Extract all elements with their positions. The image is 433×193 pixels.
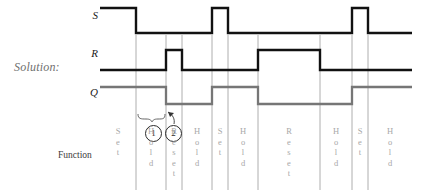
- function-row-label: Function: [58, 150, 92, 160]
- function-letter: d: [328, 158, 344, 169]
- function-letter: o: [143, 137, 159, 148]
- function-letter: H: [189, 126, 205, 137]
- function-letter: l: [382, 147, 398, 158]
- function-letter: R: [166, 126, 182, 137]
- function-letter: s: [281, 147, 297, 158]
- function-letter: e: [166, 137, 182, 148]
- function-letter: e: [352, 137, 368, 148]
- function-letter: S: [352, 126, 368, 137]
- function-letter: d: [143, 158, 159, 169]
- function-column-hold-9: Hold: [382, 126, 398, 168]
- function-letter: e: [281, 158, 297, 169]
- function-letter: l: [143, 147, 159, 158]
- function-letter: t: [281, 168, 297, 179]
- function-letter: l: [235, 147, 251, 158]
- function-letter: e: [166, 158, 182, 169]
- function-letter: s: [166, 147, 182, 158]
- function-column-hold-3: Hold: [189, 126, 205, 168]
- function-letter: S: [110, 126, 126, 137]
- signal-label-s: S: [78, 9, 98, 21]
- function-letter: l: [189, 147, 205, 158]
- function-letter: H: [235, 126, 251, 137]
- function-letter: t: [352, 147, 368, 158]
- function-letter: o: [328, 137, 344, 148]
- function-letter: t: [166, 168, 182, 179]
- marker-2-arrow: [168, 112, 174, 124]
- function-column-set-8: Set: [352, 126, 368, 158]
- function-column-set-4: Set: [212, 126, 228, 158]
- function-column-hold-5: Hold: [235, 126, 251, 168]
- q-waveform: [100, 87, 412, 104]
- function-column-hold-7: Hold: [328, 126, 344, 168]
- function-letter: l: [328, 147, 344, 158]
- hold-interval-brace: [138, 114, 165, 122]
- function-letter: e: [281, 137, 297, 148]
- solution-title: Solution:: [14, 60, 60, 75]
- function-letter: d: [189, 158, 205, 169]
- function-column-reset-2: Reset: [166, 126, 182, 179]
- function-column-hold-1: Hold: [143, 126, 159, 168]
- function-letter: e: [212, 137, 228, 148]
- signal-label-r: R: [78, 47, 98, 59]
- function-column-reset-6: Reset: [281, 126, 297, 179]
- function-letter: d: [382, 158, 398, 169]
- function-letter: t: [212, 147, 228, 158]
- function-letter: H: [328, 126, 344, 137]
- function-letter: e: [110, 137, 126, 148]
- signal-label-q: Q: [78, 86, 98, 98]
- function-letter: d: [235, 158, 251, 169]
- function-letter: t: [110, 147, 126, 158]
- function-letter: o: [235, 137, 251, 148]
- timing-diagram-figure: S R Q Solution: Function 1 2 SetHoldRese…: [0, 0, 433, 193]
- function-letter: R: [281, 126, 297, 137]
- function-letter: H: [382, 126, 398, 137]
- function-letter: o: [189, 137, 205, 148]
- function-letter: S: [212, 126, 228, 137]
- s-waveform: [100, 8, 412, 33]
- function-column-set-0: Set: [110, 126, 126, 158]
- r-waveform: [100, 50, 412, 70]
- function-letter: o: [382, 137, 398, 148]
- function-letter: H: [143, 126, 159, 137]
- waveform-canvas: [0, 0, 433, 193]
